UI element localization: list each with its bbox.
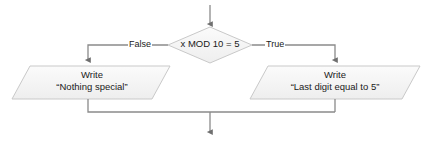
process-true-shape — [250, 66, 420, 99]
false-branch-label: False — [128, 39, 152, 49]
decision-diamond — [168, 27, 252, 63]
flowchart-canvas — [0, 0, 435, 143]
flowchart-diagram: x MOD 10 = 5 False True Write “Nothing s… — [0, 0, 435, 143]
true-branch-label: True — [265, 39, 285, 49]
merge-connector — [88, 99, 335, 112]
process-false-shape — [12, 66, 170, 99]
